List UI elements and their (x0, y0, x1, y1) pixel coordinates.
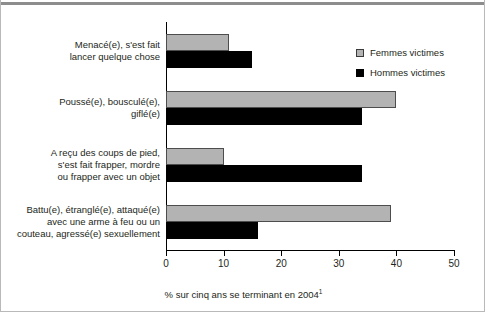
category-label-line: lancer quelque chose (0, 51, 160, 63)
x-axis-tick (224, 251, 225, 256)
x-axis-tick (166, 251, 167, 256)
x-axis-tick-label: 10 (204, 258, 244, 269)
x-axis-tick-label: 50 (434, 258, 474, 269)
x-axis-tick-label: 20 (261, 258, 301, 269)
legend-label-femmes: Femmes victimes (370, 47, 444, 58)
x-axis-label-text: % sur cinq ans se terminant en 2004 (165, 289, 319, 300)
x-axis-label: % sur cinq ans se terminant en 20041 (1, 288, 485, 300)
category-label-line: Menacé(e), s'est fait (0, 39, 160, 51)
bar-femmes (166, 205, 391, 222)
bar-hommes (166, 108, 362, 125)
bar-femmes (166, 148, 224, 165)
bar-hommes (166, 51, 252, 68)
category-labels: Menacé(e), s'est faitlancer quelque chos… (0, 22, 160, 250)
x-axis-tick-label: 0 (146, 258, 186, 269)
category-label: A reçu des coups de pied,s'est fait frap… (0, 147, 160, 183)
category-label-line: A reçu des coups de pied, (0, 147, 160, 159)
category-label-line: Poussé(e), bousculé(e), (0, 96, 160, 108)
chart-legend: Femmes victimes Hommes victimes (356, 47, 445, 87)
x-axis-tick (396, 251, 397, 256)
legend-swatch-femmes-icon (356, 49, 364, 57)
legend-swatch-hommes-icon (356, 69, 364, 77)
x-axis-tick (281, 251, 282, 256)
category-label-line: Battu(e), étranglé(e), attaqué(e) (0, 204, 160, 216)
bar-hommes (166, 165, 362, 182)
category-label: Menacé(e), s'est faitlancer quelque chos… (0, 39, 160, 63)
x-axis-label-footnote: 1 (319, 288, 323, 295)
bar-femmes (166, 91, 396, 108)
legend-label-hommes: Hommes victimes (370, 67, 445, 78)
legend-item-hommes: Hommes victimes (356, 67, 445, 78)
chart-figure: 01020304050 Menacé(e), s'est faitlancer … (0, 0, 485, 312)
category-label-line: s'est fait frapper, mordre (0, 159, 160, 171)
category-label-line: avec une arme à feu ou un (0, 216, 160, 228)
x-axis-tick (339, 251, 340, 256)
bar-hommes (166, 222, 258, 239)
category-label-line: giflé(e) (0, 108, 160, 120)
x-axis-tick (454, 251, 455, 256)
top-rule-divider (1, 2, 485, 5)
category-label: Battu(e), étranglé(e), attaqué(e)avec un… (0, 204, 160, 240)
category-label-line: ou frapper avec un objet (0, 171, 160, 183)
category-label-line: couteau, agressé(e) sexuellement (0, 228, 160, 240)
x-axis-tick-label: 30 (319, 258, 359, 269)
legend-item-femmes: Femmes victimes (356, 47, 445, 58)
bar-femmes (166, 34, 229, 51)
category-label: Poussé(e), bousculé(e),giflé(e) (0, 96, 160, 120)
x-axis-line (166, 250, 455, 251)
x-axis-tick-label: 40 (376, 258, 416, 269)
